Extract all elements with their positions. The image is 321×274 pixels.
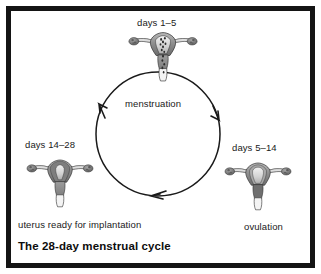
diagram-canvas <box>0 0 321 274</box>
figure-title: The 28-day menstrual cycle <box>18 240 171 252</box>
stage-label-menstruation: menstruation <box>125 98 181 109</box>
stage-label-days-5-14: days 5–14 <box>232 142 277 153</box>
uterus-implantation-ready <box>27 160 93 207</box>
uterus-ovulation <box>225 163 291 210</box>
arrow-top-left <box>99 104 107 118</box>
uterus-menstruation <box>129 33 197 81</box>
menstrual-cycle-figure: days 1–5 menstruation days 14–28 days 5–… <box>0 0 321 274</box>
cycle-circle <box>96 72 220 199</box>
stage-label-days-14-28: days 14–28 <box>25 139 75 150</box>
stage-label-implantation: uterus ready for implantation <box>18 219 141 230</box>
stage-label-days-1-5: days 1–5 <box>137 17 176 28</box>
stage-label-ovulation: ovulation <box>244 221 283 232</box>
